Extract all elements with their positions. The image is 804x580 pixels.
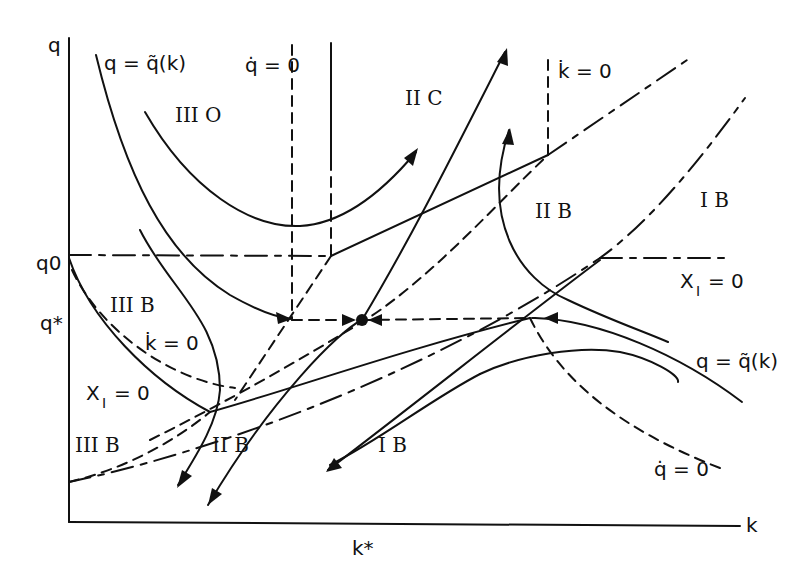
svg-text:X: X: [680, 269, 694, 293]
phase-diagram: q k k* q0 q*: [0, 0, 804, 580]
region-label-IIIB-lower: III B: [75, 433, 120, 457]
region-label-IIB-lower: II B: [212, 433, 249, 457]
label-xi-left: X I = 0: [86, 381, 150, 411]
q0-line: [69, 255, 330, 256]
svg-text:X: X: [86, 381, 100, 405]
arrowhead: [368, 314, 382, 326]
region-label-IIIB-upper: III B: [110, 293, 155, 317]
region-label-IIIO: III O: [175, 103, 221, 127]
kdot-zero-curve-left: [72, 270, 235, 388]
svg-text:= 0: = 0: [708, 269, 744, 293]
q-tilde-curve-upper: [96, 55, 292, 319]
region-label-IB-upper: I B: [700, 188, 729, 212]
upper-kink-line: [331, 155, 548, 256]
y-tick-qstar: q*: [40, 311, 63, 335]
label-kdot-left: k̇ = 0: [145, 331, 199, 355]
svg-text:= 0: = 0: [114, 381, 150, 405]
y-axis-label: q: [48, 33, 61, 57]
arrowhead: [544, 312, 558, 324]
region-label-IB-lower: I B: [378, 433, 407, 457]
label-kdot-top: k̇ = 0: [558, 59, 612, 83]
label-xi-right: X I = 0: [680, 269, 744, 299]
trajectory-IIIO: [145, 112, 416, 226]
region-label-IIC: II C: [405, 86, 442, 110]
arrowhead: [177, 470, 192, 488]
qdot-zero-curve-lower: [530, 318, 725, 470]
trajectory-IB-lower: [328, 260, 600, 470]
x-tick-kstar: k*: [352, 536, 374, 560]
svg-text:I: I: [696, 283, 700, 299]
qstar-line-right: [362, 318, 535, 320]
label-qdot-bottom: q̇ = 0: [654, 457, 709, 481]
label-q-tilde-right: q = q̃(k): [696, 349, 778, 373]
label-qdot-top: q̇ = 0: [245, 53, 300, 77]
x-axis: [69, 522, 740, 526]
svg-text:I: I: [102, 395, 106, 411]
arrowhead: [208, 488, 222, 505]
trajectory-IIB-upper: [499, 130, 668, 342]
region-label-IIB-upper: II B: [535, 199, 572, 223]
stable-arm-lower: [208, 320, 362, 505]
kink-dashed-line: [235, 256, 331, 400]
y-tick-q0: q0: [36, 251, 61, 275]
kdot-zero-diagonal: [150, 155, 548, 440]
hump-curve: [480, 350, 678, 382]
label-q-tilde-top: q = q̃(k): [104, 51, 186, 75]
x-axis-label: k: [746, 513, 758, 537]
